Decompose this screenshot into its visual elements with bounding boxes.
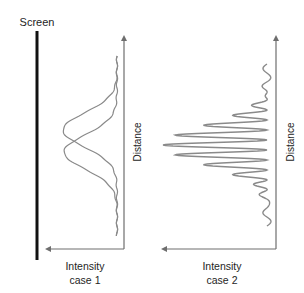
case1-intensity-label: Intensity: [65, 260, 105, 272]
case1-case-label: case 1: [70, 274, 101, 286]
case1-intensity-curve-a: [63, 56, 117, 236]
case2-intensity-label: Intensity: [202, 260, 242, 272]
case2-case-label: case 2: [207, 274, 238, 286]
case1-distance-label: Distance: [132, 122, 143, 161]
case2-intensity-curve: [163, 64, 271, 226]
case1-plot: Distance Intensity case 1: [48, 38, 143, 286]
interference-diagram: Screen Distance Intensity case 1 Distanc…: [0, 0, 304, 293]
case2-plot: Distance Intensity case 2: [163, 38, 296, 286]
diagram-svg: Screen Distance Intensity case 1 Distanc…: [0, 0, 304, 293]
screen-label: Screen: [20, 16, 55, 28]
case2-distance-label: Distance: [285, 122, 296, 161]
case1-intensity-curve-b: [64, 56, 117, 236]
